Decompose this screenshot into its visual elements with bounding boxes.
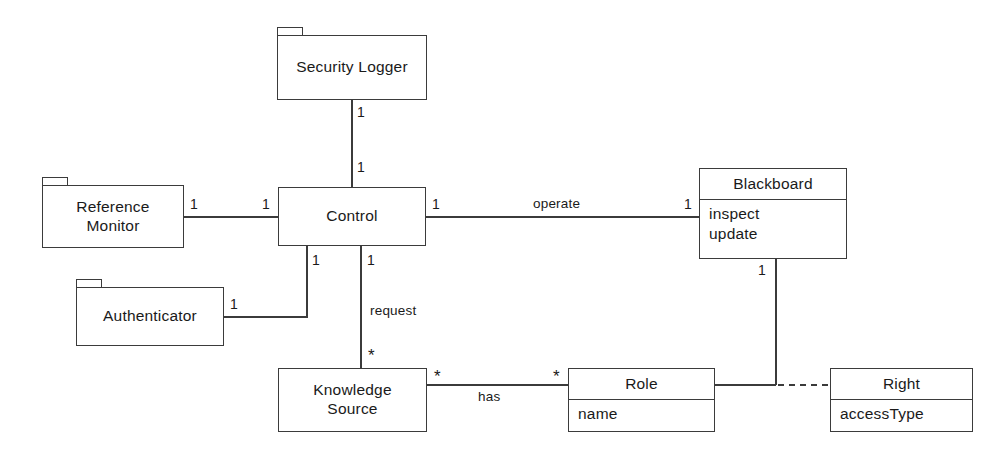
attribute-name: name xyxy=(578,404,705,424)
operations-compartment-blackboard: inspect update xyxy=(700,199,846,258)
node-label-authenticator: Authenticator xyxy=(77,288,223,345)
multiplicity-control-knowledge-source-target: * xyxy=(368,351,375,361)
multiplicity-authenticator-control-source: 1 xyxy=(230,296,238,312)
node-blackboard[interactable]: Blackboard inspect update xyxy=(699,168,847,259)
node-role[interactable]: Role name xyxy=(568,368,715,432)
multiplicity-security-logger-control-source: 1 xyxy=(357,104,365,120)
attributes-compartment-right: accessType xyxy=(831,399,972,431)
operation-inspect: inspect xyxy=(709,204,837,224)
multiplicity-blackboard-right-source: 1 xyxy=(758,262,766,278)
edge-label-operate: operate xyxy=(533,196,580,211)
multiplicity-knowledge-source-role-source: * xyxy=(434,372,441,382)
uml-class-diagram: Security Logger Reference Monitor Contro… xyxy=(0,0,1006,456)
node-authenticator[interactable]: Authenticator xyxy=(76,287,224,346)
node-label-role: Role xyxy=(569,369,714,399)
multiplicity-knowledge-source-role-target: * xyxy=(553,372,560,382)
edge-label-has: has xyxy=(478,389,500,404)
operation-update: update xyxy=(709,224,837,244)
attribute-accesstype: accessType xyxy=(840,404,963,424)
multiplicity-security-logger-control-target: 1 xyxy=(357,159,365,175)
edge-label-request: request xyxy=(370,303,416,318)
node-label-security-logger: Security Logger xyxy=(278,36,426,99)
node-right[interactable]: Right accessType xyxy=(830,368,973,432)
node-label-reference-monitor: Reference Monitor xyxy=(43,186,183,247)
node-label-control: Control xyxy=(279,188,425,245)
multiplicity-reference-monitor-control-source: 1 xyxy=(190,196,198,212)
multiplicity-authenticator-control-target: 1 xyxy=(312,252,320,268)
multiplicity-reference-monitor-control-target: 1 xyxy=(262,196,270,212)
node-label-blackboard: Blackboard xyxy=(700,169,846,199)
node-label-knowledge-source: Knowledge Source xyxy=(279,369,426,431)
attributes-compartment-role: name xyxy=(569,399,714,431)
node-security-logger[interactable]: Security Logger xyxy=(277,35,427,100)
multiplicity-control-blackboard-target: 1 xyxy=(684,196,692,212)
multiplicity-control-blackboard-source: 1 xyxy=(432,196,440,212)
node-knowledge-source[interactable]: Knowledge Source xyxy=(278,368,427,432)
node-reference-monitor[interactable]: Reference Monitor xyxy=(42,185,184,248)
node-label-right: Right xyxy=(831,369,972,399)
node-control[interactable]: Control xyxy=(278,187,426,246)
multiplicity-control-knowledge-source-source: 1 xyxy=(367,252,375,268)
